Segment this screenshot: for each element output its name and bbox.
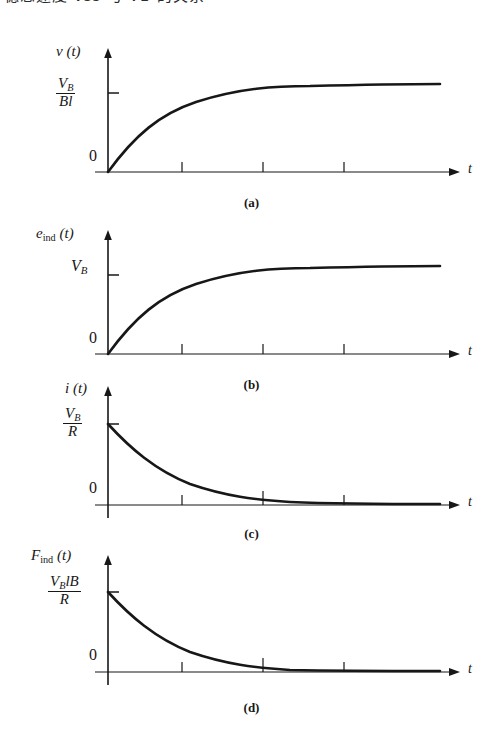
panel-c-y-axis-arrow [104,386,112,396]
panel-d-curve [108,592,440,671]
panel-c-y-value-label: VB R [63,406,82,440]
clipped-heading: 稳态速度 vss 与 VB 的关系 [0,0,503,5]
panel-d-caption: (d) [0,700,503,716]
panel-d-y-axis-label: Find (t) [31,548,71,565]
panel-d-origin-label: 0 [89,647,97,663]
panel-b-plot [0,222,503,372]
panel-b-curve [108,266,440,354]
panel-a-y-value-label: VB Bl [56,76,75,110]
panel-c-origin-label: 0 [89,480,97,496]
panel-d-y-value-label: VBlB R [48,574,81,608]
panel-b-x-axis-label: t [468,344,472,358]
panel-c-curve [108,424,440,504]
panel-b-y-value-label: VB [71,258,87,276]
panel-b-y-axis-label: eind (t) [36,226,74,243]
panel-d-x-axis-arrow [449,668,460,676]
panel-a-x-axis-arrow [449,168,460,176]
panel-d: Find (t) VBlB R 0 t (d) [0,540,503,725]
panel-a: v (t) VB Bl 0 t (a) [0,40,503,220]
figure-page: 稳态速度 vss 与 VB 的关系 v (t) VB Bl 0 [0,0,503,738]
panel-b-x-axis-arrow [449,350,460,358]
panel-c-y-axis-label: i (t) [65,381,87,396]
panel-c-x-axis-arrow [449,501,460,509]
panel-b-y-axis-arrow [104,230,112,240]
panel-a-caption: (a) [0,195,503,211]
panel-c: i (t) VB R 0 t (c) [0,378,503,558]
panel-a-y-axis-arrow [104,48,112,58]
panel-a-plot [0,40,503,190]
panel-a-origin-label: 0 [89,148,97,164]
panel-d-y-axis-arrow [104,555,112,565]
panel-a-y-axis-label: v (t) [56,44,81,59]
panel-a-x-axis-label: t [468,162,472,176]
panel-c-x-axis-label: t [468,495,472,509]
clipped-heading-text: 稳态速度 vss 与 VB 的关系 [0,0,503,5]
panel-a-curve [108,84,440,172]
panel-b-origin-label: 0 [89,330,97,346]
panel-c-plot [0,378,503,528]
panel-d-x-axis-label: t [468,662,472,676]
panel-b: eind (t) VB 0 t (b) [0,222,503,402]
panel-d-plot [0,540,503,695]
